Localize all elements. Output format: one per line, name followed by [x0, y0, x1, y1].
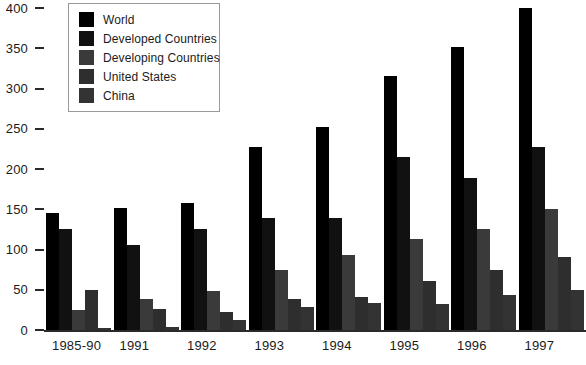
- bar: [288, 299, 301, 330]
- y-axis-tick-label: 200: [6, 163, 35, 176]
- bar: [477, 229, 490, 330]
- legend-item: United States: [79, 67, 211, 86]
- y-axis-tick-label: 400: [6, 2, 35, 15]
- y-axis-tick-label: 50: [13, 283, 35, 296]
- bar: [262, 218, 275, 330]
- legend-label: Developing Countries: [103, 52, 220, 64]
- y-axis: 050100150200250300350400: [0, 0, 44, 340]
- bar: [355, 297, 368, 330]
- x-axis-labels: 1985-901991199219931994199519961997: [44, 338, 586, 353]
- bar: [72, 310, 85, 330]
- x-axis-label: 1994: [316, 338, 384, 353]
- legend-item: Developing Countries: [79, 48, 211, 67]
- bar: [436, 304, 449, 330]
- bar: [532, 147, 545, 330]
- x-axis-label: 1993: [249, 338, 317, 353]
- y-axis-tick-label: 250: [6, 122, 35, 135]
- y-axis-tick-dash: [35, 7, 44, 9]
- legend-item: Developed Countries: [79, 29, 211, 48]
- bar: [423, 281, 436, 330]
- bar: [194, 229, 207, 330]
- bar: [207, 291, 220, 330]
- bar: [153, 309, 166, 330]
- chart-legend: WorldDeveloped CountriesDeveloping Count…: [68, 3, 220, 112]
- bar: [545, 209, 558, 330]
- bar: [384, 76, 397, 330]
- y-axis-tick-label: 350: [6, 42, 35, 55]
- bar: [127, 245, 140, 330]
- bar: [249, 147, 262, 330]
- bar-group: [316, 0, 384, 330]
- bar: [181, 203, 194, 330]
- bar: [410, 239, 423, 330]
- bar: [85, 290, 98, 330]
- legend-swatch: [79, 50, 94, 65]
- bar: [464, 178, 477, 330]
- bar: [558, 257, 571, 330]
- bar-group: [249, 0, 317, 330]
- bar: [233, 320, 246, 330]
- bar: [571, 290, 584, 330]
- y-axis-tick-dash: [35, 168, 44, 170]
- bar: [490, 270, 503, 330]
- y-axis-tick-dash: [35, 329, 44, 331]
- bar: [46, 213, 59, 330]
- bar: [451, 47, 464, 330]
- y-axis-tick-label: 150: [6, 203, 35, 216]
- x-axis-label: 1992: [181, 338, 249, 353]
- legend-swatch: [79, 12, 94, 27]
- bar: [114, 208, 127, 330]
- bar: [301, 307, 314, 330]
- x-axis-label: 1985-90: [46, 338, 114, 353]
- bar: [329, 218, 342, 330]
- y-axis-tick-label: 100: [6, 243, 35, 256]
- legend-swatch: [79, 88, 94, 103]
- y-axis-tick-label: 0: [21, 324, 35, 337]
- bar: [140, 299, 153, 330]
- legend-label: China: [103, 90, 135, 102]
- x-axis-label: 1997: [519, 338, 586, 353]
- bar-group: [384, 0, 452, 330]
- legend-swatch: [79, 69, 94, 84]
- y-axis-tick-dash: [35, 88, 44, 90]
- bar-chart: 050100150200250300350400 1985-9019911992…: [0, 0, 586, 365]
- x-axis-line: [44, 330, 586, 332]
- legend-swatch: [79, 31, 94, 46]
- x-axis-label: 1995: [384, 338, 452, 353]
- x-axis-label: 1991: [114, 338, 182, 353]
- y-axis-tick-dash: [35, 249, 44, 251]
- bar: [220, 312, 233, 331]
- bar: [397, 157, 410, 330]
- bar: [316, 127, 329, 330]
- bar: [503, 295, 516, 330]
- legend-item: China: [79, 86, 211, 105]
- bar: [275, 270, 288, 330]
- legend-label: United States: [103, 71, 176, 83]
- y-axis-tick-dash: [35, 47, 44, 49]
- bar: [368, 303, 381, 330]
- legend-label: Developed Countries: [103, 33, 217, 45]
- y-axis-tick-label: 300: [6, 82, 35, 95]
- bar: [519, 8, 532, 330]
- x-axis-label: 1996: [451, 338, 519, 353]
- legend-label: World: [103, 14, 135, 26]
- bar: [59, 229, 72, 330]
- legend-item: World: [79, 10, 211, 29]
- bar: [342, 255, 355, 330]
- y-axis-tick-dash: [35, 208, 44, 210]
- y-axis-tick-dash: [35, 289, 44, 291]
- y-axis-tick-dash: [35, 128, 44, 130]
- bar-group: [451, 0, 519, 330]
- bar-group: [519, 0, 586, 330]
